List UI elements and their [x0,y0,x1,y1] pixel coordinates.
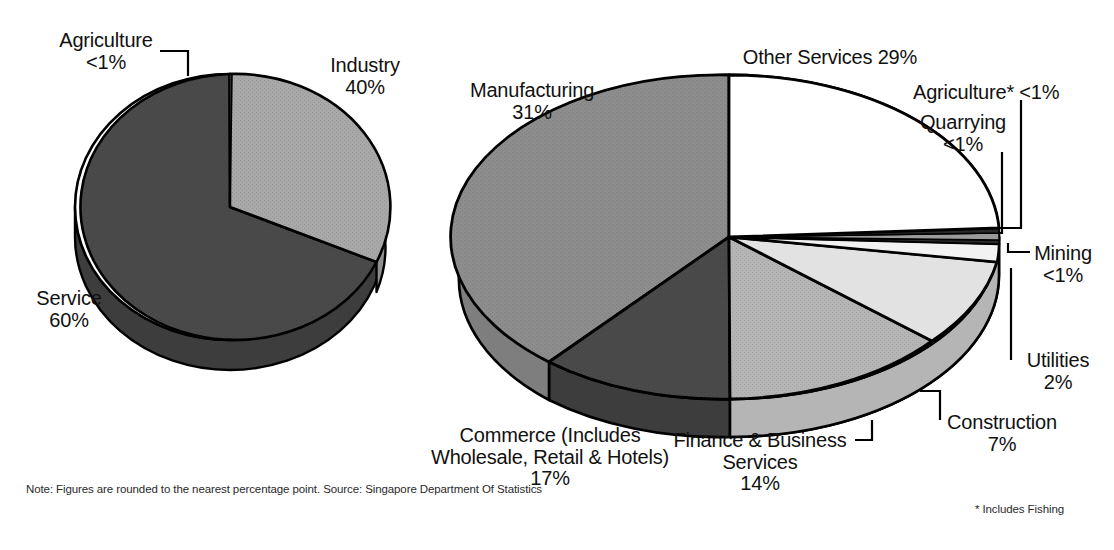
label-right-quarrying: Quarrying <1% [903,112,1023,155]
label-right-construction: Construction 7% [927,412,1077,455]
label-right-utilities: Utilities 2% [1008,350,1108,393]
label-left-industry: Industry 40% [300,55,430,98]
label-right-commerce: Commerce (Includes Wholesale, Retail & H… [390,425,710,490]
pie-chart-figure: Agriculture <1% Industry 40% Service 60%… [0,0,1114,550]
source-note: Note: Figures are rounded to the nearest… [26,483,542,495]
label-right-agriculture: Agriculture* <1% [913,82,1113,104]
label-left-agriculture: Agriculture <1% [46,30,166,73]
label-right-mining: Mining <1% [1018,243,1108,286]
label-right-other-services: Other Services 29% [720,47,940,69]
label-left-service: Service 60% [14,288,124,331]
fishing-footnote: * Includes Fishing [975,503,1064,515]
label-right-manufacturing: Manufacturing 31% [432,80,632,123]
